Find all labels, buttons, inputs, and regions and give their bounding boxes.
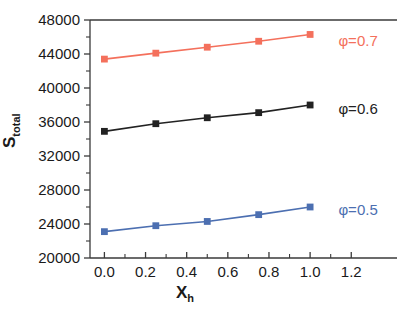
y-axis-label-text: S xyxy=(0,137,19,148)
series-3-marker xyxy=(152,222,159,229)
series-1-marker xyxy=(255,38,262,45)
series-1-marker xyxy=(307,31,314,38)
series-2-marker xyxy=(255,109,262,116)
series-2-marker xyxy=(204,114,211,121)
series-3-marker xyxy=(307,204,314,211)
y-tick-label: 36000 xyxy=(6,114,80,129)
x-tick-label: 0.8 xyxy=(247,264,291,279)
series-label-1: φ=0.7 xyxy=(338,32,377,49)
chart-figure: Stotal Xh 200002400028000320003600040000… xyxy=(0,0,397,310)
x-tick-label: 0.6 xyxy=(206,264,250,279)
series-label-3: φ=0.5 xyxy=(338,201,377,218)
y-tick-label: 44000 xyxy=(6,46,80,61)
series-1-marker xyxy=(101,56,108,63)
x-axis-label-subscript: h xyxy=(187,292,194,304)
series-2-marker xyxy=(307,102,314,109)
y-tick-label: 32000 xyxy=(6,148,80,163)
series-label-2: φ=0.6 xyxy=(338,100,377,117)
x-tick-label: 0.0 xyxy=(82,264,126,279)
x-axis-label-text: X xyxy=(176,283,187,302)
x-tick-label: 1.0 xyxy=(288,264,332,279)
x-axis-label: Xh xyxy=(176,283,194,304)
series-3-marker xyxy=(255,211,262,218)
series-1-marker xyxy=(204,44,211,51)
series-3-marker xyxy=(101,228,108,235)
x-tick-label: 1.2 xyxy=(329,264,373,279)
y-tick-label: 48000 xyxy=(6,12,80,27)
series-2-marker xyxy=(101,128,108,135)
y-tick-label: 20000 xyxy=(6,250,80,265)
x-tick-label: 0.4 xyxy=(165,264,209,279)
series-1-marker xyxy=(152,50,159,57)
series-3-marker xyxy=(204,218,211,225)
y-tick-label: 40000 xyxy=(6,80,80,95)
x-tick-label: 0.2 xyxy=(124,264,168,279)
y-tick-label: 28000 xyxy=(6,182,80,197)
series-2-marker xyxy=(152,120,159,127)
y-tick-label: 24000 xyxy=(6,216,80,231)
